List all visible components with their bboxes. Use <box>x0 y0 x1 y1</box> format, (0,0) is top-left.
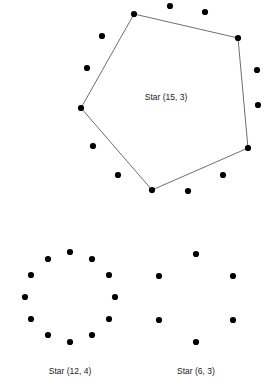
star-point-node <box>84 65 90 71</box>
star-point-node <box>230 273 236 279</box>
star-point-node <box>99 33 105 39</box>
star-point-node <box>112 294 118 300</box>
star-point-node <box>254 67 260 73</box>
star-point-node <box>185 188 191 194</box>
star-point-node <box>106 272 112 278</box>
star-point-node <box>67 339 73 345</box>
star-point-node <box>220 172 226 178</box>
star-point-node <box>156 317 162 323</box>
star-point-node <box>230 317 236 323</box>
star-point-node <box>255 102 261 108</box>
star-vertex-node <box>149 187 155 193</box>
star-edge <box>152 148 248 190</box>
star-point-node <box>90 143 96 149</box>
star-point-node <box>106 316 112 322</box>
star-point-node <box>89 332 95 338</box>
star-point-node <box>202 9 208 15</box>
star-figures-canvas: Star (15, 3) Star (12, 4) Star (6, 3) <box>0 0 271 388</box>
star-figure-label: Star (15, 3) <box>145 92 188 102</box>
figure-group-star-6-3: Star (6, 3) <box>156 251 236 376</box>
star-point-node <box>22 294 28 300</box>
star-point-node <box>115 172 121 178</box>
star-point-node <box>156 273 162 279</box>
star-point-node <box>67 249 73 255</box>
star-vertex-node <box>131 11 137 17</box>
star-point-node <box>89 256 95 262</box>
star-point-node <box>193 339 199 345</box>
figure-group-star-15-3: Star (15, 3) <box>78 3 261 194</box>
star-point-node <box>193 251 199 257</box>
star-edge <box>238 38 248 148</box>
star-edge <box>81 14 134 108</box>
star-figure-label: Star (12, 4) <box>49 366 92 376</box>
star-edge <box>134 14 238 38</box>
star-point-node <box>167 3 173 9</box>
star-vertex-node <box>235 35 241 41</box>
star-vertex-node <box>78 105 84 111</box>
star-point-node <box>45 256 51 262</box>
star-figure-label: Star (6, 3) <box>177 366 215 376</box>
star-point-node <box>28 316 34 322</box>
star-point-node <box>28 272 34 278</box>
star-point-node <box>45 332 51 338</box>
figure-group-star-12-4: Star (12, 4) <box>22 249 118 376</box>
star-vertex-node <box>245 145 251 151</box>
